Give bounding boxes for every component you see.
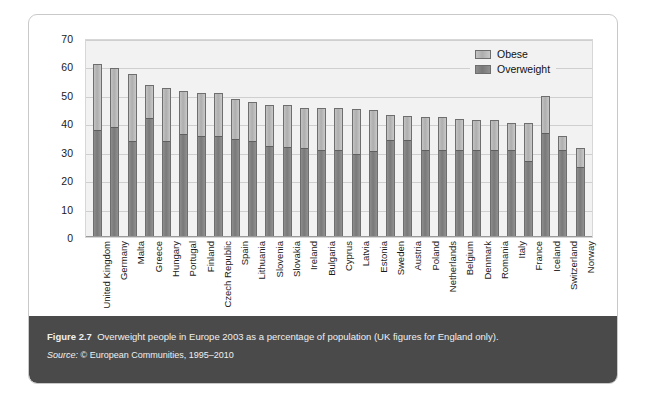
bar-segment-overweight [232, 139, 239, 236]
x-label-slot: France [521, 241, 538, 319]
x-label-slot: Estonia [365, 241, 382, 319]
stacked-bar[interactable] [438, 117, 447, 237]
bar-segment-obese [232, 100, 239, 139]
bar-segment-overweight [163, 141, 170, 236]
bar-segment-overweight [439, 150, 446, 236]
stacked-bar[interactable] [128, 74, 137, 237]
x-label-slot: Netherlands [434, 241, 451, 319]
stacked-bar[interactable] [317, 108, 326, 237]
bar-slot [89, 40, 106, 237]
figure-source-line: Source: © European Communities, 1995–201… [47, 348, 601, 362]
bar-segment-obese [249, 103, 256, 142]
y-axis-tick-label: 30 [61, 147, 73, 159]
bar-segment-overweight [129, 141, 136, 236]
bar-segment-overweight [284, 147, 291, 236]
bar-segment-obese [525, 124, 532, 161]
bar-segment-overweight [198, 136, 205, 236]
bar-segment-obese [129, 75, 136, 141]
figure-caption-bar: Figure 2.7 Overweight people in Europe 2… [29, 316, 618, 383]
figure-card: 010203040506070 ObeseOverweight United K… [28, 14, 618, 384]
stacked-bar[interactable] [386, 115, 395, 237]
bar-segment-obese [163, 89, 170, 141]
stacked-bar[interactable] [162, 88, 171, 237]
x-label-slot: Poland [417, 241, 434, 319]
chart-region: 010203040506070 ObeseOverweight United K… [29, 15, 618, 318]
bar-segment-overweight [559, 150, 566, 236]
y-axis-tick-label: 20 [61, 175, 73, 187]
y-axis-tick-label: 10 [61, 204, 73, 216]
figure-caption-text: Overweight people in Europe 2003 as a pe… [97, 331, 498, 342]
stacked-bar[interactable] [507, 123, 516, 237]
stacked-bar[interactable] [472, 120, 481, 237]
stacked-bar[interactable] [179, 91, 188, 237]
bar-segment-obese [318, 109, 325, 150]
stacked-bar[interactable] [403, 116, 412, 237]
bar-segment-obese [422, 118, 429, 150]
y-axis-tick-label: 70 [61, 33, 73, 45]
bar-segment-obese [335, 109, 342, 150]
stacked-bar[interactable] [93, 64, 102, 237]
bar-segment-obese [353, 110, 360, 154]
x-label-slot: Spain [227, 241, 244, 319]
x-label-slot: Denmark [469, 241, 486, 319]
stacked-bar[interactable] [490, 120, 499, 237]
y-axis-ticks: 010203040506070 [29, 39, 81, 238]
bar-segment-obese [180, 92, 187, 135]
figure-number: Figure 2.7 [47, 331, 92, 342]
bar-segment-overweight [508, 150, 515, 236]
bar-slot [313, 40, 330, 237]
stacked-bar[interactable] [455, 119, 464, 237]
x-label-slot: Latvia [348, 241, 365, 319]
stacked-bar[interactable] [421, 117, 430, 237]
stacked-bar[interactable] [197, 93, 206, 237]
stacked-bar[interactable] [145, 85, 154, 237]
bar-segment-obese [559, 137, 566, 151]
x-label-slot: Iceland [538, 241, 555, 319]
stacked-bar[interactable] [214, 93, 223, 237]
bar-segment-obese [577, 149, 584, 167]
x-label-slot: United Kingdom [88, 241, 105, 319]
x-label-slot: Lithuania [244, 241, 261, 319]
stacked-bar[interactable] [334, 108, 343, 237]
bar-segment-overweight [404, 140, 411, 236]
stacked-bar[interactable] [283, 105, 292, 237]
bar-slot [382, 40, 399, 237]
bar-slot [434, 40, 451, 237]
bar-segment-overweight [335, 150, 342, 236]
stacked-bar[interactable] [558, 136, 567, 237]
stacked-bar[interactable] [248, 102, 257, 237]
stacked-bar[interactable] [110, 68, 119, 237]
x-label-slot: Switzerland [555, 241, 572, 319]
legend-entry: Overweight [475, 63, 550, 75]
bar-segment-obese [456, 120, 463, 150]
bar-segment-obese [370, 111, 377, 151]
stacked-bar[interactable] [300, 108, 309, 237]
source-text: © European Communities, 1995–2010 [81, 350, 234, 360]
x-label-slot: Greece [140, 241, 157, 319]
stacked-bar[interactable] [369, 110, 378, 237]
stacked-bar[interactable] [576, 148, 585, 237]
bar-segment-overweight [491, 150, 498, 236]
x-axis-labels: United KingdomGermanyMaltaGreeceHungaryP… [85, 241, 593, 319]
bar-slot [192, 40, 209, 237]
stacked-bar[interactable] [524, 123, 533, 237]
bar-segment-overweight [422, 150, 429, 236]
y-axis-tick-label: 60 [61, 61, 73, 73]
bar-segment-overweight [318, 150, 325, 236]
source-label: Source: [47, 350, 78, 360]
stacked-bar[interactable] [231, 99, 240, 237]
bar-segment-overweight [180, 134, 187, 236]
bar-segment-obese [404, 117, 411, 140]
y-axis-tick-label: 50 [61, 90, 73, 102]
legend-swatch-overweight [475, 65, 491, 74]
bar-segment-overweight [215, 136, 222, 236]
bar-segment-obese [198, 94, 205, 135]
bar-slot [365, 40, 382, 237]
x-label-slot: Czech Republic [209, 241, 226, 319]
x-label-slot: Portugal [175, 241, 192, 319]
stacked-bar[interactable] [541, 96, 550, 237]
stacked-bar[interactable] [265, 105, 274, 237]
stacked-bar[interactable] [352, 109, 361, 237]
bar-segment-obese [387, 116, 394, 141]
bar-segment-overweight [146, 118, 153, 236]
